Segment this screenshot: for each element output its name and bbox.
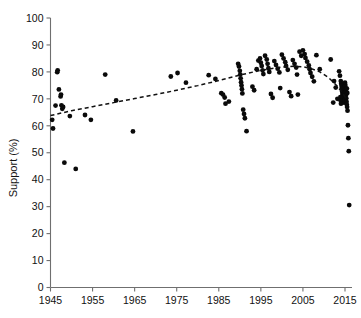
data-point	[339, 101, 344, 106]
data-point	[83, 113, 88, 118]
scatter-chart: 0102030405060708090100 19451955196519751…	[0, 0, 361, 318]
data-point	[57, 87, 62, 92]
data-point	[240, 91, 245, 96]
data-point	[184, 80, 189, 85]
data-point	[346, 123, 351, 128]
y-axis-title: Support (%)	[7, 139, 19, 198]
data-point	[175, 71, 180, 76]
x-tick-label: 2015	[333, 294, 357, 306]
data-point	[62, 160, 67, 165]
data-point	[337, 69, 342, 74]
y-tick-label: 70	[32, 93, 44, 105]
data-point	[259, 64, 264, 69]
x-tick-label: 1995	[249, 294, 273, 306]
trend-line	[51, 66, 348, 115]
data-point	[345, 108, 350, 113]
data-point	[347, 203, 352, 208]
data-point	[285, 67, 290, 72]
data-point	[226, 99, 231, 104]
data-point	[55, 68, 60, 73]
data-point	[344, 86, 349, 91]
data-point	[314, 53, 319, 58]
data-point	[261, 72, 266, 77]
x-tick-label: 1965	[123, 294, 147, 306]
data-point	[277, 70, 282, 75]
data-points	[50, 48, 352, 207]
x-tick-label: 1955	[81, 294, 105, 306]
data-point	[310, 74, 315, 79]
data-point	[295, 92, 300, 97]
data-point	[244, 129, 249, 134]
y-tick-label: 50	[32, 146, 44, 158]
data-point	[61, 105, 66, 110]
data-point	[206, 73, 211, 78]
x-tick-label: 1985	[207, 294, 231, 306]
data-point	[311, 79, 316, 84]
data-point	[242, 112, 247, 117]
y-tick-label: 80	[32, 66, 44, 78]
y-tick-label: 20	[32, 227, 44, 239]
y-tick-label: 0	[38, 281, 44, 293]
y-tick-label: 90	[32, 39, 44, 51]
data-point	[270, 95, 275, 100]
data-point	[51, 126, 56, 131]
y-tick-label: 60	[32, 120, 44, 132]
data-point	[265, 61, 270, 66]
data-point	[240, 87, 245, 92]
data-point	[222, 95, 227, 100]
data-point	[346, 136, 351, 141]
data-point	[252, 88, 257, 93]
y-tick-label: 10	[32, 254, 44, 266]
y-tick-label: 30	[32, 200, 44, 212]
data-point	[50, 117, 55, 122]
data-point	[264, 57, 269, 62]
data-point	[131, 129, 136, 134]
data-point	[237, 64, 242, 69]
data-point	[345, 91, 350, 96]
data-point	[328, 57, 333, 62]
data-point	[59, 92, 64, 97]
data-point	[258, 56, 263, 61]
x-tick-label: 1975	[165, 294, 189, 306]
data-point	[241, 107, 246, 112]
chart-canvas: 0102030405060708090100 19451955196519751…	[0, 0, 361, 318]
data-point	[103, 72, 108, 77]
data-point	[331, 100, 336, 105]
data-point	[67, 114, 72, 119]
x-tick-label: 2005	[291, 294, 315, 306]
data-point	[242, 116, 247, 121]
y-axis-ticks: 0102030405060708090100	[26, 12, 51, 294]
data-point	[88, 117, 93, 122]
data-point	[267, 70, 272, 75]
data-point	[53, 103, 58, 108]
y-tick-label: 100	[26, 12, 44, 24]
y-tick-label: 40	[32, 173, 44, 185]
data-point	[346, 149, 351, 154]
data-point	[289, 94, 294, 99]
data-point	[73, 167, 78, 172]
data-point	[335, 96, 340, 101]
data-point	[295, 72, 300, 77]
x-axis-ticks: 19451955196519751985199520052015	[39, 288, 357, 306]
data-point	[168, 74, 173, 79]
data-point	[338, 73, 343, 78]
x-tick-label: 1945	[39, 294, 63, 306]
data-point	[278, 86, 283, 91]
